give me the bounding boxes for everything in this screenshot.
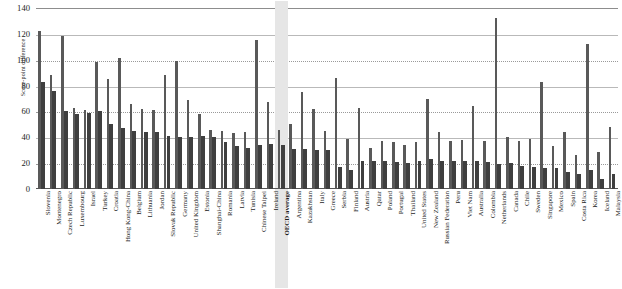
x-tick-label: Russian Federation bbox=[444, 191, 451, 244]
x-tick-label: Chinese Taipei bbox=[261, 191, 268, 232]
bar-short bbox=[475, 161, 479, 189]
x-tick-label: United States bbox=[421, 191, 428, 228]
x-tick-label: Montenegro bbox=[56, 191, 63, 225]
bar-short bbox=[429, 159, 433, 189]
x-tick-label: Latvia bbox=[239, 191, 246, 209]
bar-short bbox=[64, 111, 68, 189]
bar-group bbox=[333, 9, 344, 189]
bar-group bbox=[595, 9, 606, 189]
bar-group bbox=[139, 9, 150, 189]
bar-group bbox=[150, 9, 161, 189]
x-tick-label: Belgium bbox=[136, 191, 143, 215]
bar-short bbox=[349, 170, 353, 189]
x-tick-label: OECD average bbox=[284, 191, 291, 236]
bar-group bbox=[287, 9, 298, 189]
x-tick-label: Chile bbox=[524, 191, 531, 206]
bar-short bbox=[167, 136, 171, 189]
x-tick-label: Peru bbox=[455, 191, 462, 204]
bar-group bbox=[515, 9, 526, 189]
bar-short bbox=[383, 161, 387, 189]
bar-group bbox=[298, 9, 309, 189]
bar-short bbox=[109, 124, 113, 189]
x-tick-label: Lithuania bbox=[147, 191, 154, 217]
bar-group bbox=[356, 9, 367, 189]
x-tick-label: Slovak Republic bbox=[170, 191, 177, 237]
bar-short bbox=[144, 132, 148, 189]
bar-group bbox=[424, 9, 435, 189]
bar-short bbox=[577, 174, 581, 190]
x-tick-label: Kazakhstan bbox=[307, 191, 314, 223]
plot-area bbox=[36, 8, 618, 189]
y-tick-label: 120 bbox=[0, 29, 30, 39]
bar-group bbox=[550, 9, 561, 189]
y-tick-label: 40 bbox=[0, 132, 30, 142]
bar-group bbox=[481, 9, 492, 189]
bar-short bbox=[155, 132, 159, 189]
bar-group bbox=[401, 9, 412, 189]
bar-group bbox=[264, 9, 275, 189]
bar-group bbox=[378, 9, 389, 189]
x-tick-label: Poland bbox=[387, 191, 394, 210]
x-tick-label: Portugal bbox=[398, 191, 405, 214]
bar-short bbox=[178, 137, 182, 189]
x-tick-label: Singapore bbox=[547, 191, 554, 219]
x-tick-label: Viet Nam bbox=[467, 191, 474, 218]
x-tick-label: Greece bbox=[330, 191, 337, 211]
bar-group bbox=[93, 9, 104, 189]
x-tick-label: Iceland bbox=[604, 191, 611, 211]
x-tick-label: Slovenia bbox=[45, 191, 52, 215]
bar-group bbox=[492, 9, 503, 189]
x-axis-tick-labels: SloveniaMontenegroCzech RepublicLuxembou… bbox=[36, 191, 618, 289]
bar-short bbox=[292, 149, 296, 189]
bar-group bbox=[390, 9, 401, 189]
bar-short bbox=[315, 150, 319, 189]
x-tick-label: Austria bbox=[364, 191, 371, 211]
bar-short bbox=[338, 167, 342, 189]
bar-short bbox=[509, 163, 513, 189]
bar-short bbox=[532, 167, 536, 189]
x-tick-label: Tunisia bbox=[250, 191, 257, 211]
bar-group bbox=[310, 9, 321, 189]
bar-group bbox=[561, 9, 572, 189]
bar-short bbox=[98, 111, 102, 189]
bar-group bbox=[162, 9, 173, 189]
x-tick-label: Qatar bbox=[376, 191, 383, 206]
bar-short bbox=[395, 162, 399, 189]
bar-group bbox=[70, 9, 81, 189]
bar-group bbox=[572, 9, 583, 189]
bar-group bbox=[173, 9, 184, 189]
bar-group bbox=[47, 9, 58, 189]
bar-short bbox=[212, 137, 216, 189]
bar-short bbox=[224, 142, 228, 189]
x-tick-label: United Kingdom bbox=[193, 191, 200, 238]
bar-short bbox=[406, 163, 410, 189]
y-tick-label: 20 bbox=[0, 158, 30, 168]
bar-group bbox=[584, 9, 595, 189]
bar-group bbox=[219, 9, 230, 189]
bar-short bbox=[258, 145, 262, 189]
x-tick-label: Jordan bbox=[159, 191, 166, 209]
bar-tall bbox=[495, 18, 498, 189]
x-tick-label: Sweden bbox=[535, 191, 542, 213]
bar-short bbox=[555, 168, 559, 189]
bar-group bbox=[184, 9, 195, 189]
bar-group bbox=[241, 9, 252, 189]
bar-group bbox=[607, 9, 618, 189]
bar-short bbox=[52, 91, 56, 189]
bar-group bbox=[116, 9, 127, 189]
bar-short bbox=[612, 174, 616, 190]
x-tick-label: Canada bbox=[513, 191, 520, 212]
x-tick-label: Estonia bbox=[204, 191, 211, 212]
bar-short bbox=[372, 161, 376, 189]
y-tick-label: 140 bbox=[0, 3, 30, 13]
x-tick-label: Australia bbox=[478, 191, 485, 216]
bar-group bbox=[196, 9, 207, 189]
bar-tall bbox=[586, 44, 589, 189]
bar-short bbox=[201, 136, 205, 189]
x-tick-label: Serbia bbox=[341, 191, 348, 209]
bar-group bbox=[276, 9, 287, 189]
bar-short bbox=[600, 179, 604, 189]
bar-group bbox=[413, 9, 424, 189]
x-tick-label: Korea bbox=[592, 191, 599, 208]
